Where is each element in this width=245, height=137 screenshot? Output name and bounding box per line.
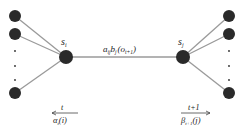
left-node-1 <box>9 10 21 22</box>
trellis-diagram: si sj aijbj(ot+1) t αt(i) t+1 βt+1(j) <box>0 0 245 137</box>
right-nodes <box>223 10 235 99</box>
right-edges <box>183 16 229 93</box>
ellipsis-dot <box>14 65 16 67</box>
ellipsis-dot <box>228 65 230 67</box>
right-node-n <box>223 87 235 99</box>
right-node-1 <box>223 10 235 22</box>
state-node-si <box>59 50 73 64</box>
edge-right-2 <box>183 34 229 57</box>
ellipsis-dot <box>14 50 16 52</box>
edge-left-n <box>15 57 66 93</box>
left-nodes <box>9 10 21 99</box>
state-node-sj <box>176 50 190 64</box>
ellipsis-dot <box>14 79 16 81</box>
edge-right-n <box>183 57 229 93</box>
time-label-t1: t+1 <box>188 103 200 112</box>
transition-label: aijbj(ot+1) <box>103 44 136 55</box>
time-label-t: t <box>61 103 64 112</box>
right-node-2 <box>223 28 235 40</box>
ellipsis-dot <box>228 79 230 81</box>
edge-left-2 <box>15 34 66 57</box>
left-edges <box>15 16 66 93</box>
left-node-n <box>9 87 21 99</box>
edge-left-1 <box>15 16 66 57</box>
state-label-sj: sj <box>178 36 184 48</box>
edge-right-1 <box>183 16 229 57</box>
alpha-label: αt(i) <box>53 115 67 126</box>
beta-label: βt+1(j) <box>180 115 201 126</box>
ellipsis-dot <box>228 50 230 52</box>
state-label-si: si <box>61 36 67 48</box>
left-node-2 <box>9 28 21 40</box>
